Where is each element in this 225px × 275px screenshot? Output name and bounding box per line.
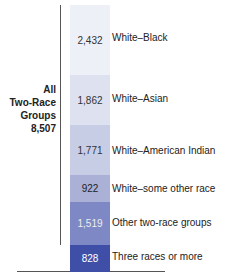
group-label-line-1: All <box>0 83 56 96</box>
segment-white-american-indian: 1,771 <box>70 125 110 175</box>
category-label: White–Asian <box>112 93 168 104</box>
group-label-total: 8,507 <box>0 122 56 135</box>
category-label: Other two-race groups <box>112 217 212 228</box>
group-total-label: All Two-Race Groups 8,507 <box>0 83 56 135</box>
segment-other-two-race: 1,519 <box>70 202 110 245</box>
segment-value: 828 <box>82 253 99 264</box>
segment-value: 1,862 <box>77 95 102 106</box>
category-label: Three races or more <box>112 251 203 262</box>
group-label-line-3: Groups <box>0 109 56 122</box>
segment-white-asian: 1,862 <box>70 75 110 125</box>
segment-value: 2,432 <box>77 35 102 46</box>
category-label: White–some other race <box>112 183 215 194</box>
group-label-line-2: Two-Race <box>0 96 56 109</box>
segment-value: 1,771 <box>77 145 102 156</box>
category-label: White–Black <box>112 32 168 43</box>
category-label: White–American Indian <box>112 145 215 156</box>
segment-white-black: 2,432 <box>70 5 110 75</box>
segment-value: 922 <box>82 183 99 194</box>
segment-white-other: 922 <box>70 175 110 202</box>
segment-value: 1,519 <box>77 218 102 229</box>
vertical-axis-line <box>60 5 61 245</box>
segment-three-or-more: 828 <box>70 245 110 272</box>
